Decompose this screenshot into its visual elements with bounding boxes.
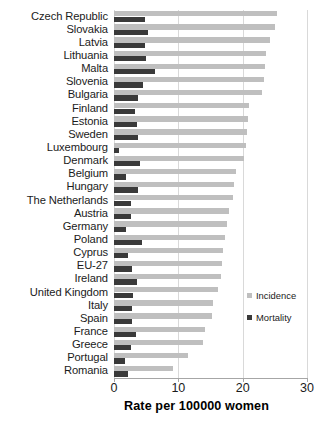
category-label: Germany bbox=[63, 221, 108, 232]
category-label: Greece bbox=[72, 339, 108, 350]
category-label: France bbox=[74, 326, 108, 337]
bar-mortality bbox=[114, 135, 138, 140]
category-label: Slovenia bbox=[66, 76, 108, 87]
bar-mortality bbox=[114, 253, 128, 258]
category-label: EU-27 bbox=[77, 260, 108, 271]
bar-incidence bbox=[114, 208, 229, 213]
bar-mortality bbox=[114, 69, 155, 74]
category-label: Czech Republic bbox=[31, 11, 108, 22]
bar-incidence bbox=[114, 24, 275, 29]
x-axis-title: Rate per 100000 women bbox=[0, 399, 323, 413]
category-label: Hungary bbox=[66, 181, 108, 192]
bar-incidence bbox=[114, 221, 227, 226]
legend-label: Incidence bbox=[256, 290, 296, 301]
bar-mortality bbox=[114, 187, 138, 192]
x-tick-label: 0 bbox=[111, 381, 118, 395]
bar-mortality bbox=[114, 306, 132, 311]
category-label: Portugal bbox=[67, 352, 108, 363]
category-label: Spain bbox=[80, 313, 108, 324]
bar-mortality bbox=[114, 109, 135, 114]
bar-mortality bbox=[114, 161, 140, 166]
category-label: Estonia bbox=[71, 116, 108, 127]
category-label: Cyprus bbox=[73, 247, 108, 258]
x-tick-label: 30 bbox=[300, 381, 314, 395]
category-label: Latvia bbox=[79, 37, 108, 48]
bar-incidence bbox=[114, 195, 233, 200]
legend-item[interactable]: Incidence bbox=[247, 290, 296, 301]
gridline bbox=[307, 10, 308, 378]
category-label: Finland bbox=[72, 103, 108, 114]
category-axis-labels: Czech RepublicSlovakiaLatviaLithuaniaMal… bbox=[0, 10, 110, 378]
category-label: United Kingdom bbox=[30, 287, 108, 298]
bar-incidence bbox=[114, 11, 277, 16]
bar-mortality bbox=[114, 30, 148, 35]
legend-swatch-icon bbox=[247, 293, 252, 298]
bar-incidence bbox=[114, 116, 248, 121]
category-label: Malta bbox=[81, 63, 108, 74]
bar-incidence bbox=[114, 169, 236, 174]
bar-incidence bbox=[114, 300, 213, 305]
bar-mortality bbox=[114, 43, 145, 48]
category-label: Luxembourg bbox=[47, 142, 108, 153]
bar-mortality bbox=[114, 148, 119, 153]
bar-mortality bbox=[114, 201, 131, 206]
bar-incidence bbox=[114, 366, 173, 371]
bar-mortality bbox=[114, 279, 137, 284]
category-label: Belgium bbox=[68, 168, 108, 179]
bar-incidence bbox=[114, 261, 222, 266]
category-label: Slovakia bbox=[67, 24, 109, 35]
bar-mortality bbox=[114, 95, 138, 100]
bar-incidence bbox=[114, 90, 262, 95]
legend-swatch-icon bbox=[247, 315, 252, 320]
category-label: Austria bbox=[74, 208, 108, 219]
category-label: Lithuania bbox=[63, 50, 108, 61]
category-label: Romania bbox=[64, 365, 108, 376]
bar-mortality bbox=[114, 293, 133, 298]
bar-mortality bbox=[114, 345, 131, 350]
x-tick-label: 10 bbox=[171, 381, 185, 395]
bar-mortality bbox=[114, 56, 146, 61]
bar-chart: Czech RepublicSlovakiaLatviaLithuaniaMal… bbox=[0, 0, 323, 426]
category-label: Denmark bbox=[63, 155, 108, 166]
bar-incidence bbox=[114, 143, 246, 148]
bar-mortality bbox=[114, 174, 126, 179]
x-axis-line bbox=[114, 378, 308, 379]
x-tick-label: 20 bbox=[236, 381, 250, 395]
bar-incidence bbox=[114, 182, 234, 187]
bar-mortality bbox=[114, 332, 136, 337]
bar-incidence bbox=[114, 274, 221, 279]
bar-mortality bbox=[114, 17, 145, 22]
legend-item[interactable]: Mortality bbox=[247, 312, 296, 323]
category-label: Ireland bbox=[74, 273, 108, 284]
bar-mortality bbox=[114, 240, 142, 245]
bar-incidence bbox=[114, 77, 264, 82]
bar-mortality bbox=[114, 266, 132, 271]
bar-mortality bbox=[114, 319, 132, 324]
bar-mortality bbox=[114, 122, 137, 127]
bar-mortality bbox=[114, 227, 126, 232]
bar-mortality bbox=[114, 371, 128, 376]
bar-incidence bbox=[114, 248, 223, 253]
bar-mortality bbox=[114, 358, 125, 363]
category-label: Poland bbox=[74, 234, 108, 245]
bar-incidence bbox=[114, 353, 188, 358]
bar-mortality bbox=[114, 214, 131, 219]
bar-incidence bbox=[114, 287, 218, 292]
category-label: Italy bbox=[88, 300, 108, 311]
category-label: Bulgaria bbox=[68, 89, 108, 100]
chart-legend: IncidenceMortality bbox=[247, 290, 296, 334]
legend-label: Mortality bbox=[256, 312, 291, 323]
category-label: The Netherlands bbox=[27, 195, 108, 206]
bar-incidence bbox=[114, 103, 249, 108]
category-label: Sweden bbox=[68, 129, 108, 140]
bar-mortality bbox=[114, 82, 143, 87]
